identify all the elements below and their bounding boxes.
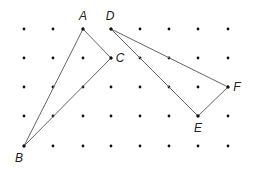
grid-dot [110, 86, 113, 89]
triangle-abc [24, 29, 111, 146]
vertex-label-d: D [106, 9, 115, 23]
vertex-point-f [226, 85, 229, 88]
grid-dot [168, 145, 171, 148]
vertex-label-f: F [233, 80, 241, 94]
vertex-labels: ABCDEF [15, 9, 241, 165]
grid-dot [227, 145, 230, 148]
grid-dot [110, 115, 113, 118]
vertex-label-c: C [116, 51, 125, 65]
vertex-label-a: A [78, 9, 87, 23]
grid-dot [23, 57, 26, 60]
grid-dot [227, 115, 230, 118]
grid-dot [168, 28, 171, 31]
grid-dot [23, 86, 26, 89]
grid-dot [227, 28, 230, 31]
vertex-point-d [109, 27, 112, 30]
vertex-point-e [196, 114, 199, 117]
vertex-point-b [22, 144, 25, 147]
grid-dot [197, 57, 200, 60]
grid-dot [197, 86, 200, 89]
dot-grid-diagram: ABCDEF [0, 0, 254, 171]
grid-dot [52, 57, 55, 60]
grid-dot [227, 57, 230, 60]
vertex-point-a [81, 27, 84, 30]
grid-dot [52, 145, 55, 148]
grid-dot [23, 115, 26, 118]
grid-dot [168, 115, 171, 118]
grid-dot [197, 28, 200, 31]
vertex-label-b: B [15, 151, 23, 165]
vertex-point-c [109, 56, 112, 59]
grid-dot [52, 28, 55, 31]
grid-dot [110, 145, 113, 148]
grid-dot [139, 86, 142, 89]
grid-dot [139, 28, 142, 31]
grid-dot [82, 145, 85, 148]
grid-dot [23, 28, 26, 31]
grid-dot [139, 115, 142, 118]
grid-dot [82, 57, 85, 60]
vertex-label-e: E [194, 121, 203, 135]
grid-dot [197, 145, 200, 148]
triangle-def [111, 29, 228, 116]
grid-dot [139, 145, 142, 148]
grid-dot [82, 115, 85, 118]
